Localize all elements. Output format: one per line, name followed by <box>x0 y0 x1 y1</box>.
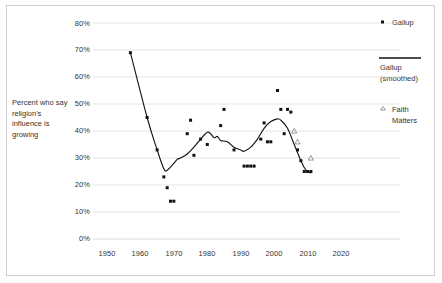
gridlines <box>93 23 400 239</box>
data-point <box>283 132 286 135</box>
data-point <box>199 138 202 141</box>
data-point <box>249 165 252 168</box>
data-point <box>296 148 299 151</box>
data-point <box>206 143 209 146</box>
data-point <box>189 119 192 122</box>
data-point <box>269 140 272 143</box>
data-point <box>169 200 172 203</box>
data-point <box>246 165 249 168</box>
data-point <box>223 108 226 111</box>
data-point <box>146 116 149 119</box>
data-point <box>263 121 266 124</box>
legend-markers <box>379 21 421 111</box>
data-point <box>129 51 132 54</box>
data-point <box>156 148 159 151</box>
data-point <box>303 170 306 173</box>
chart-figure: Percent who say religion's influence is … <box>0 0 442 283</box>
data-point <box>186 132 189 135</box>
data-point <box>259 138 262 141</box>
data-point <box>295 139 300 144</box>
data-point <box>192 154 195 157</box>
triangle-marker-icon <box>381 107 386 111</box>
data-point <box>309 170 312 173</box>
data-point <box>219 124 222 127</box>
plot-area <box>0 0 442 283</box>
data-point <box>243 165 246 168</box>
data-point <box>233 148 236 151</box>
data-point <box>279 108 282 111</box>
data-point <box>162 175 165 178</box>
data-point <box>266 140 269 143</box>
data-point <box>286 108 289 111</box>
data-point <box>299 159 302 162</box>
data-point <box>306 170 309 173</box>
data-point <box>253 165 256 168</box>
gallup-smoothed-line <box>130 53 311 173</box>
data-point <box>289 111 292 114</box>
data-point <box>172 200 175 203</box>
data-point <box>166 186 169 189</box>
square-marker-icon <box>381 21 384 24</box>
gallup-markers <box>129 51 313 203</box>
faith-matters-markers <box>292 128 314 160</box>
data-point <box>276 89 279 92</box>
